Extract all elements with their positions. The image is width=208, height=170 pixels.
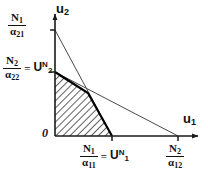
- numerator-subscript: 1: [19, 16, 23, 25]
- numerator-base: N: [169, 142, 177, 154]
- fraction-n1-alpha21: N1 α21: [8, 12, 26, 39]
- fraction-denominator: α21: [8, 26, 26, 39]
- fraction-n2-alpha12: N2 α12: [166, 143, 184, 170]
- numerator-subscript: 2: [14, 59, 18, 68]
- fraction-numerator: N2: [3, 55, 21, 69]
- numerator-subscript: 2: [177, 147, 181, 156]
- x-axis-label: u1: [183, 112, 196, 127]
- variable-u2-normal: UN2: [33, 61, 52, 75]
- numerator-base: N: [83, 142, 91, 154]
- variable-subscript: 2: [48, 67, 52, 76]
- y-axis-label-subscript: 2: [64, 7, 69, 17]
- fraction-n1-alpha11: N1 α11: [80, 143, 98, 170]
- y-tick-label-lower: N2 α22 = UN2: [3, 55, 52, 82]
- x-tick-label-right: N2 α12: [166, 143, 184, 170]
- y-tick-label-upper: N1 α21: [8, 12, 26, 39]
- fraction-denominator: α11: [80, 157, 98, 170]
- numerator-base: N: [11, 11, 19, 23]
- y-axis-label: u2: [56, 2, 69, 17]
- denominator-subscript: 21: [16, 30, 24, 39]
- denominator-subscript: 12: [174, 161, 182, 170]
- numerator-subscript: 1: [91, 147, 95, 156]
- fraction-numerator: N1: [8, 12, 26, 26]
- x-tick-label-left: N1 α11 = UN1: [80, 143, 129, 170]
- fraction-numerator: N2: [166, 143, 184, 157]
- linear-programming-feasible-region-figure: u2 u1 N1 α21 N2 α22 = UN2 0 N1 α11 = UN1…: [0, 0, 208, 170]
- origin-label: 0: [42, 127, 48, 139]
- equals-sign: =: [100, 151, 108, 162]
- equals-sign: =: [23, 63, 31, 74]
- variable-subscript: 1: [124, 155, 128, 164]
- fraction-denominator: α22: [3, 69, 21, 82]
- x-axis-label-base: u: [183, 111, 191, 126]
- feasible-region-hatch: [55, 72, 112, 136]
- denominator-subscript: 22: [11, 73, 19, 82]
- fraction-numerator: N1: [80, 143, 98, 157]
- fraction-n2-alpha22: N2 α22: [3, 55, 21, 82]
- fraction-denominator: α12: [166, 157, 184, 170]
- variable-u1-normal: UN1: [110, 149, 129, 163]
- y-axis-label-base: u: [56, 1, 64, 16]
- variable-base: U: [33, 60, 42, 74]
- variable-base: U: [110, 148, 119, 162]
- numerator-base: N: [6, 54, 14, 66]
- denominator-subscript: 11: [88, 161, 96, 170]
- x-axis-label-subscript: 1: [191, 117, 196, 127]
